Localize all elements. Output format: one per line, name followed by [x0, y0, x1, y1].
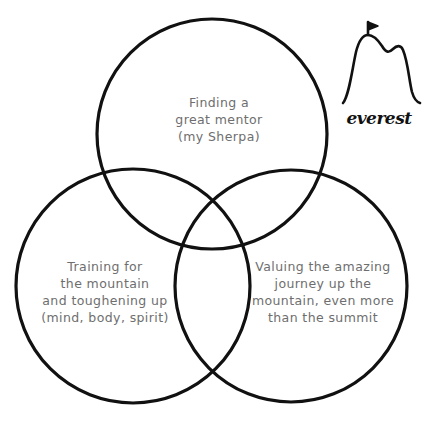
mountain-with-flag-icon — [343, 22, 420, 103]
venn-diagram: Finding a great mentor (my Sherpa) Train… — [0, 0, 436, 429]
label-line: (mind, body, spirit) — [30, 309, 180, 326]
everest-logo-text: everest — [346, 108, 412, 128]
label-line: Finding a — [146, 94, 292, 111]
label-training: Training for the mountain and toughening… — [30, 258, 180, 326]
label-journey: Valuing the amazing journey up the mount… — [244, 258, 402, 326]
label-line: the mountain — [30, 275, 180, 292]
label-line: mountain, even more — [244, 292, 402, 309]
label-line: great mentor — [146, 111, 292, 128]
label-line: journey up the — [244, 275, 402, 292]
label-line: and toughening up — [30, 292, 180, 309]
label-line: (my Sherpa) — [146, 128, 292, 145]
venn-circles — [0, 0, 436, 429]
label-line: than the summit — [244, 309, 402, 326]
label-line: Valuing the amazing — [244, 258, 402, 275]
label-line: Training for — [30, 258, 180, 275]
label-mentor: Finding a great mentor (my Sherpa) — [146, 94, 292, 145]
